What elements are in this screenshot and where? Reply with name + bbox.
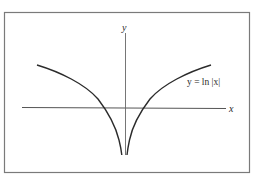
chart-frame — [5, 13, 250, 173]
y-axis-label: y — [121, 22, 127, 33]
function-label: y = ln |x| — [187, 77, 220, 87]
chart-figure: y x y = ln |x| — [0, 0, 255, 183]
x-axis-label: x — [228, 103, 234, 114]
